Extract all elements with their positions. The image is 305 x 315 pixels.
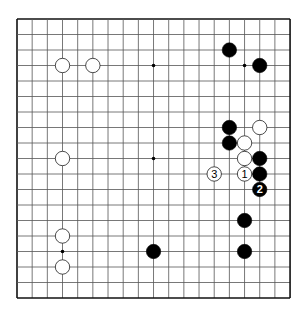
black-stone bbox=[222, 43, 236, 57]
white-stone bbox=[237, 136, 251, 150]
black-stone bbox=[253, 167, 267, 181]
move-number-label: 3 bbox=[211, 168, 217, 180]
black-stone bbox=[222, 136, 236, 150]
black-stone bbox=[237, 213, 251, 227]
white-stone bbox=[55, 58, 69, 72]
black-stone: 2 bbox=[253, 182, 267, 196]
white-stone bbox=[86, 58, 100, 72]
black-stone bbox=[253, 151, 267, 165]
move-number-label: 1 bbox=[241, 168, 247, 180]
white-stone bbox=[237, 151, 251, 165]
move-number-label: 2 bbox=[257, 183, 263, 195]
white-stone: 3 bbox=[207, 167, 221, 181]
white-stone bbox=[253, 120, 267, 134]
white-stone bbox=[55, 151, 69, 165]
black-stone bbox=[253, 58, 267, 72]
white-stone: 1 bbox=[237, 167, 251, 181]
black-stone bbox=[237, 244, 251, 258]
white-stone bbox=[55, 260, 69, 274]
star-point bbox=[243, 64, 247, 68]
black-stone bbox=[222, 120, 236, 134]
go-board: 312 bbox=[0, 0, 305, 315]
star-point bbox=[152, 157, 156, 161]
star-point bbox=[152, 64, 156, 68]
white-stone bbox=[55, 229, 69, 243]
black-stone bbox=[146, 244, 160, 258]
star-point bbox=[61, 250, 65, 254]
